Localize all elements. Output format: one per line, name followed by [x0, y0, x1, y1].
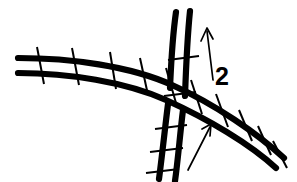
diagram-canvas: 2 [0, 0, 297, 182]
route-number-label: 2 [215, 62, 229, 90]
track-crossing-diagram: 2 [0, 0, 297, 182]
